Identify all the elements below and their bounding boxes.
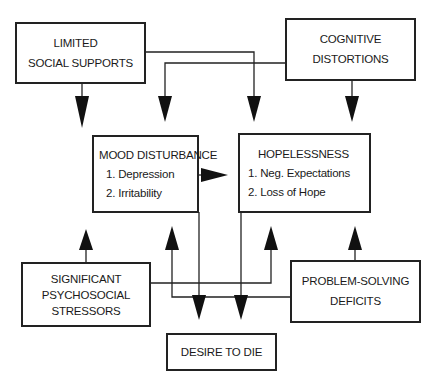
node-label-line: LIMITED [54,35,98,52]
node-cognitive-distortions: COGNITIVE DISTORTIONS [285,18,416,81]
node-desire-to-die: DESIRE TO DIE [166,333,277,371]
node-label-line: DEFICITS [330,293,381,310]
node-item: 1. Depression [102,166,174,183]
arrowhead-icon [165,226,179,250]
arrowhead-icon [158,96,172,122]
arrowhead-icon [348,226,362,250]
node-label-line: COGNITIVE [320,31,381,48]
node-problem-solving-deficits: PROBLEM-SOLVING DEFICITS [290,260,421,323]
node-label-line: SIGNIFICANT [51,271,122,287]
arrowhead-icon [234,295,248,320]
node-hopelessness: HOPELESSNESS 1. Neg. Expectations 2. Los… [238,133,371,213]
arrowhead-icon [79,229,93,250]
node-title: DESIRE TO DIE [181,344,262,361]
arrowhead-icon [247,96,261,122]
node-label-line: SOCIAL SUPPORTS [28,55,133,72]
node-label-line: STRESSORS [51,303,120,319]
node-limited-social-supports: LIMITED SOCIAL SUPPORTS [15,22,146,84]
arrowhead-icon [201,168,228,182]
arrowhead-icon [264,226,278,250]
node-item: 2. Loss of Hope [248,184,326,201]
arrowhead-icon [75,96,89,128]
arrowhead-icon [345,96,359,122]
node-mood-disturbance: MOOD DISTURBANCE 1. Depression 2. Irrita… [92,135,199,213]
node-title: MOOD DISTURBANCE [99,147,217,164]
node-label-line: DISTORTIONS [313,51,389,68]
node-label-line: PROBLEM-SOLVING [302,273,409,290]
node-title: HOPELESSNESS [258,146,349,163]
node-item: 2. Irritability [102,185,162,202]
arrowhead-icon [192,295,206,320]
node-significant-psychosocial-stressors: SIGNIFICANT PSYCHOSOCIAL STRESSORS [21,262,151,327]
node-item: 1. Neg. Expectations [248,165,350,182]
node-label-line: PSYCHOSOCIAL [42,287,130,303]
